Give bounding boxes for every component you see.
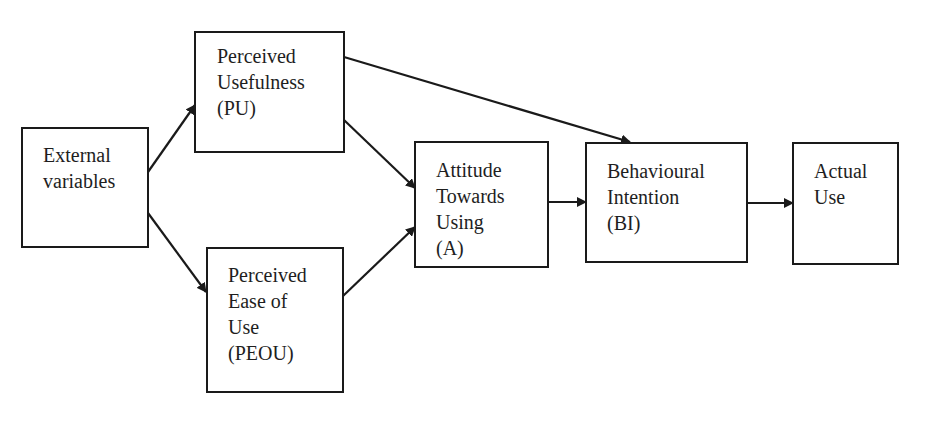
node-label: Actual Use	[814, 158, 867, 210]
node-perceived-usefulness: Perceived Usefulness (PU)	[194, 31, 345, 153]
edge-external-to-peou	[148, 213, 206, 292]
node-actual-use: Actual Use	[792, 142, 899, 265]
node-perceived-ease-of-use: Perceived Ease of Use (PEOU)	[206, 247, 344, 393]
node-label: Behavioural Intention (BI)	[607, 158, 705, 236]
node-label: Perceived Usefulness (PU)	[217, 43, 305, 121]
node-attitude-towards-using: Attitude Towards Using (A)	[414, 141, 549, 268]
edge-external-to-pu	[148, 105, 195, 172]
node-label: Attitude Towards Using (A)	[436, 157, 505, 261]
edge-pu-to-bi	[344, 57, 630, 142]
node-label: External variables	[43, 142, 115, 194]
node-behavioural-intention: Behavioural Intention (BI)	[585, 142, 748, 263]
node-label: Perceived Ease of Use (PEOU)	[228, 262, 307, 366]
tam-diagram: External variables Perceived Usefulness …	[0, 0, 926, 421]
edge-peou-to-attitude	[343, 227, 415, 296]
node-external-variables: External variables	[21, 127, 149, 248]
edge-pu-to-attitude	[344, 120, 415, 188]
